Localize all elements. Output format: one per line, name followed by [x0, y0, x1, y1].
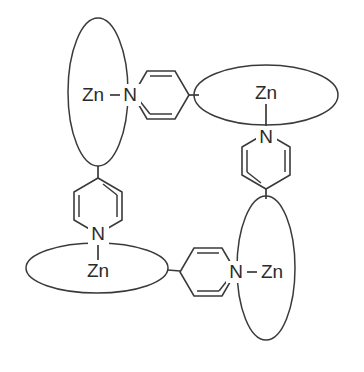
pyridine-right: N	[242, 126, 290, 189]
pyridine-bottom-nitrogen-label: N	[229, 261, 243, 282]
metal-label-bottom-right: Zn	[261, 261, 283, 282]
coordination-bonds	[98, 95, 266, 272]
macrocycle-group	[26, 18, 338, 340]
bond-macrocycle-bottomleft-to-pyridine-bottom	[168, 270, 180, 271]
metal-label-top-right: Zn	[255, 82, 277, 103]
chemical-structure-diagram: N N N N	[0, 0, 364, 372]
metal-label-top-left: Zn	[82, 84, 104, 105]
pyridine-top-nitrogen-label: N	[123, 84, 137, 105]
pyridine-right-nitrogen-label: N	[259, 126, 273, 147]
pyridine-left: N	[74, 178, 122, 245]
metal-labels: Zn Zn Zn Zn	[78, 82, 289, 283]
structure-canvas: N N N N	[0, 0, 364, 372]
pyridine-top: N	[120, 71, 189, 119]
pyridine-top-ring	[133, 71, 189, 119]
pyridine-left-nitrogen-label: N	[91, 223, 105, 244]
metal-label-bottom-left: Zn	[87, 260, 109, 281]
